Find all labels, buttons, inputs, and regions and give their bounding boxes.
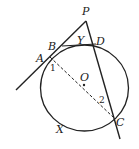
geometry-diagram: P A B D Y C O X 1 2	[0, 0, 139, 149]
angle-label-2: 2	[99, 96, 105, 105]
label-o: O	[80, 72, 89, 83]
label-d: D	[96, 36, 105, 47]
label-y: Y	[77, 35, 84, 46]
label-b: B	[48, 41, 56, 52]
tangent-line-pa	[16, 21, 86, 90]
label-x: X	[56, 124, 64, 135]
label-a: A	[36, 53, 44, 64]
label-c: C	[116, 117, 124, 128]
angle-label-1: 1	[50, 64, 56, 73]
label-p: P	[82, 6, 89, 17]
center-point-o	[83, 84, 85, 86]
diameter-ac-dashed	[50, 57, 113, 117]
